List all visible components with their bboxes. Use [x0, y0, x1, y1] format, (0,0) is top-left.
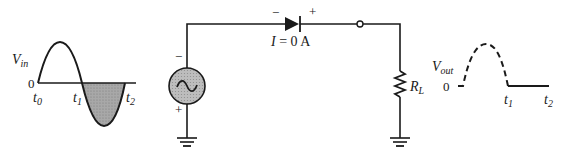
input-zero-label: 0 — [28, 76, 35, 91]
input-t1-label: t1 — [73, 90, 82, 107]
diode-current-label: I = 0 A — [270, 34, 311, 49]
half-wave-rectifier-diagram: Vin 0 t0 t1 t2 − + — [0, 0, 565, 160]
vin-label: Vin — [12, 52, 28, 69]
output-t2-label: t2 — [544, 92, 553, 109]
resistor-icon — [395, 71, 405, 97]
input-t2-label: t2 — [126, 90, 135, 107]
terminal-to-resistor-wire — [363, 24, 400, 71]
resistor-label: RL — [409, 79, 425, 96]
diode-icon — [285, 16, 300, 32]
ac-source-icon — [169, 68, 205, 104]
source-minus-label: − — [175, 49, 182, 64]
source-plus-label: + — [175, 102, 182, 117]
ground-icon-left — [177, 138, 197, 146]
diode-minus-label: − — [272, 5, 279, 20]
diode-plus-label: + — [309, 4, 316, 19]
output-terminal — [357, 21, 363, 27]
vout-label: Vout — [432, 59, 454, 76]
output-dashed-hump — [458, 44, 508, 86]
input-waveform: Vin 0 t0 t1 t2 — [12, 42, 136, 126]
output-zero-label: 0 — [443, 79, 450, 94]
output-t1-label: t1 — [504, 92, 513, 109]
output-waveform: Vout 0 t1 t2 — [432, 44, 553, 109]
circuit: − + − + I = 0 A RL — [169, 4, 425, 146]
ground-icon-right — [390, 138, 410, 146]
t0-label: t0 — [33, 90, 42, 107]
